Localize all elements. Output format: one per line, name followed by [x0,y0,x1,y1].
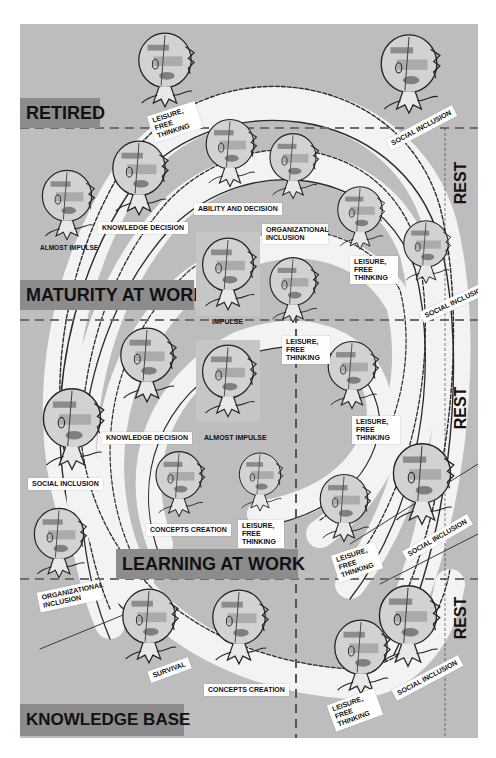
rest-label-1: REST [452,162,470,205]
caption-almost-impulse: ALMOST IMPULSE [36,242,102,253]
figure-head [116,584,182,668]
figure-head [132,30,198,110]
figure-head [114,324,180,406]
figure-head [106,138,172,218]
caption-knowledge-decision: KNOWLEDGE DECISION [98,222,188,234]
caption-leisure-free-thinking: LEISURE, FREE THINKING [352,416,400,444]
caption-leisure-free-thinking: LEISURE, FREE THINKING [238,520,284,548]
rest-label-2: REST [452,387,470,430]
zone-label-learning-text: LEARNING AT WORK [122,554,305,575]
figure-head [28,502,90,584]
caption-knowledge-decision: KNOWLEDGE DECISION [102,432,192,444]
zone-label-retired-text: RETIRED [26,103,105,124]
figure-head [206,584,272,670]
figure-head [332,180,388,256]
caption-social-inclusion: SOCIAL INCLUSION [28,478,103,490]
figure-head [398,214,454,290]
diagram-frame: RETIRED MATURITY AT WORK LEARNING AT WOR… [20,24,478,738]
figure-head [36,166,98,244]
caption-almost-impulse: ALMOST IMPULSE [200,432,271,444]
figure-head [196,232,260,316]
figure-head [36,386,108,472]
caption-leisure-free-thinking: LEISURE, FREE THINKING [282,336,330,364]
caption-concepts-creation: CONCEPTS CREATION [146,524,231,536]
figure-head [200,114,260,192]
zone-label-maturity: MATURITY AT WORK [20,280,194,310]
caption-organizational-inclusion: ORGANIZATIONAL INCLUSION [262,224,328,244]
figure-head [150,444,208,524]
figure-head [374,32,444,116]
figure-head [322,336,382,414]
caption-concepts-creation: CONCEPTS CREATION [204,684,289,696]
zone-label-maturity-text: MATURITY AT WORK [26,285,206,306]
rest-label-3: REST [452,597,470,640]
figure-head [314,468,374,548]
figure-head [264,252,322,328]
caption-impulse: IMPULSE [208,316,247,328]
zone-label-retired: RETIRED [20,98,100,128]
figure-head [264,128,322,204]
zone-label-learning: LEARNING AT WORK [116,549,298,579]
caption-ability-and-decision: ABILITY AND DECISION [194,203,282,215]
figure-head [372,580,444,672]
figure-head [196,340,260,422]
figure-head [234,444,286,520]
zone-label-knowledge: KNOWLEDGE BASE [20,704,184,736]
figure-head [386,438,458,530]
zone-label-knowledge-text: KNOWLEDGE BASE [26,710,190,730]
caption-leisure-free-thinking: LEISURE, FREE THINKING [350,256,398,284]
